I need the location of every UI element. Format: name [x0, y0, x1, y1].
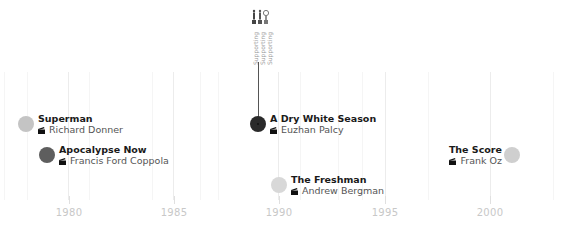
- film-label-superman[interactable]: Superman Richard Donner: [38, 113, 123, 135]
- gridline: [4, 72, 5, 200]
- award-icons: [251, 9, 267, 25]
- axis-label-1995: 1995: [365, 207, 405, 218]
- film-title: Superman: [38, 113, 123, 124]
- film-title: Apocalypse Now: [59, 144, 169, 155]
- film-dot-apocalypse-now[interactable]: [39, 147, 55, 163]
- axis-label-1980: 1980: [49, 207, 89, 218]
- award-statue-icon: [252, 10, 256, 24]
- film-director: Andrew Bergman: [302, 185, 384, 196]
- clapperboard-icon: [449, 158, 456, 165]
- film-director: Richard Donner: [49, 124, 123, 135]
- film-label-apocalypse-now[interactable]: Apocalypse Now Francis Ford Coppola: [59, 144, 169, 166]
- gridline: [27, 72, 28, 200]
- axis-label-1985: 1985: [154, 207, 194, 218]
- award-label: Supporting: [259, 32, 266, 65]
- axis-label-2000: 2000: [470, 207, 510, 218]
- axis-tick: [490, 196, 491, 204]
- gridline-1985: [173, 72, 174, 200]
- axis-tick: [279, 196, 280, 204]
- clapperboard-icon: [291, 188, 298, 195]
- gridline-1980: [68, 72, 69, 200]
- clapperboard-icon: [59, 158, 66, 165]
- gridline: [200, 72, 201, 200]
- award-label: Supporting: [252, 32, 259, 65]
- film-dot-a-dry-white-season[interactable]: [250, 116, 266, 132]
- gridline: [152, 72, 153, 200]
- award-connector-line: [258, 62, 259, 124]
- axis-tick: [69, 196, 70, 204]
- film-label-a-dry-white-season[interactable]: A Dry White Season Euzhan Palcy: [270, 113, 376, 135]
- film-label-the-score[interactable]: The Score Frank Oz: [449, 144, 502, 166]
- award-label: Supporting: [266, 32, 273, 65]
- award-mask-icon: [263, 10, 268, 24]
- clapperboard-icon: [270, 127, 277, 134]
- award-statue-icon: [258, 10, 262, 24]
- film-title: The Freshman: [291, 174, 384, 185]
- clapperboard-icon: [38, 127, 45, 134]
- gridline: [89, 72, 90, 200]
- center-dot: [257, 123, 259, 125]
- film-director: Francis Ford Coppola: [70, 155, 169, 166]
- film-director: Frank Oz: [460, 155, 502, 166]
- film-title: A Dry White Season: [270, 113, 376, 124]
- film-dot-superman[interactable]: [18, 116, 34, 132]
- axis-label-1990: 1990: [259, 207, 299, 218]
- film-dot-the-score[interactable]: [504, 147, 520, 163]
- axis-tick: [385, 196, 386, 204]
- gridline: [553, 72, 554, 200]
- gridline: [428, 72, 429, 200]
- film-title: The Score: [449, 144, 502, 155]
- film-label-the-freshman[interactable]: The Freshman Andrew Bergman: [291, 174, 384, 196]
- gridline: [218, 72, 219, 200]
- gridline-1995: [385, 72, 386, 200]
- axis-tick: [174, 196, 175, 204]
- film-director: Euzhan Palcy: [281, 124, 344, 135]
- film-dot-the-freshman[interactable]: [271, 177, 287, 193]
- gridline-2000: [490, 72, 491, 200]
